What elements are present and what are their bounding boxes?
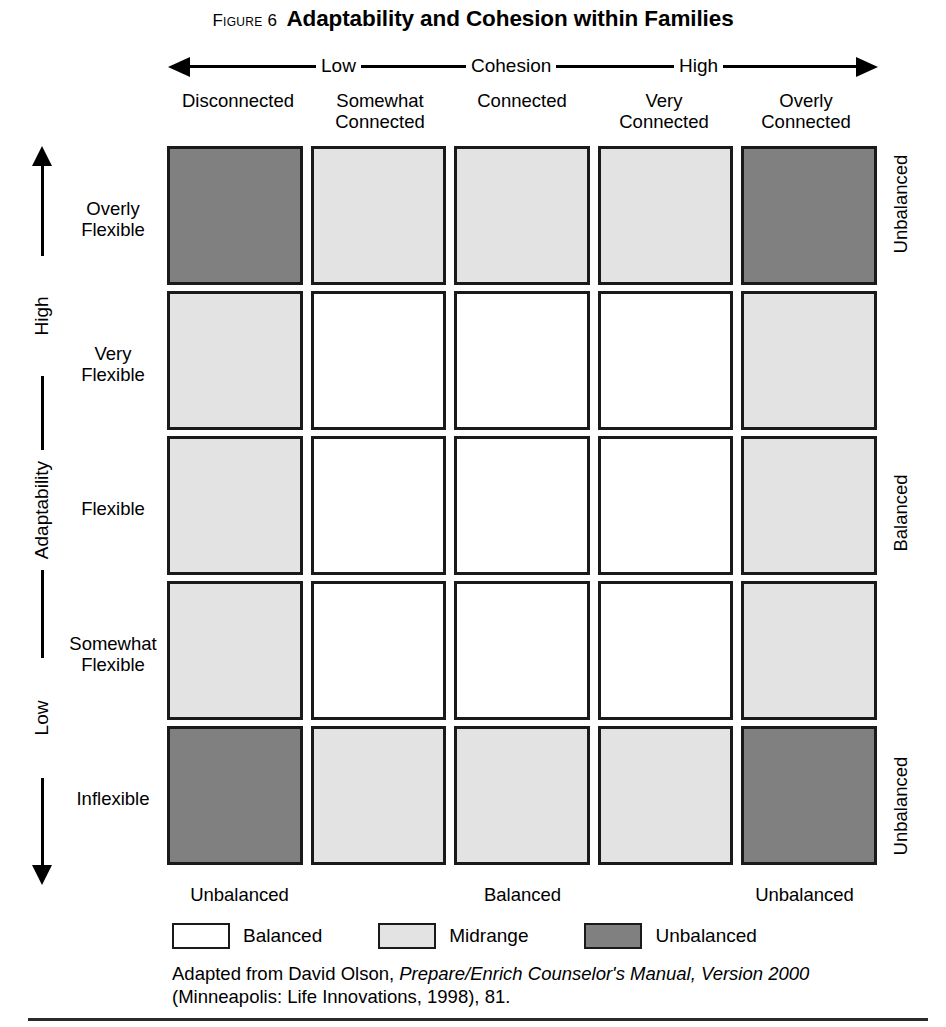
grid-cell: [741, 291, 877, 430]
grid-row: [167, 146, 877, 291]
row-label-somewhat-flexible: Somewhat Flexible: [62, 581, 164, 726]
grid-cell: [741, 146, 877, 285]
column-header-very-connected: Very Connected: [593, 90, 735, 132]
grid-cell: [741, 581, 877, 720]
grid-cell: [598, 436, 734, 575]
legend-swatch-balanced: [172, 923, 230, 949]
cohesion-axis-high-label: High: [674, 52, 723, 80]
grid-row: [167, 291, 877, 436]
side-band-label-unbalanced-top: Unbalanced: [886, 119, 916, 289]
cohesion-axis-low-label: Low: [316, 52, 361, 80]
grid-cell: [454, 726, 590, 865]
adaptability-axis-high-label: High: [26, 256, 58, 376]
row-label-inflexible: Inflexible: [62, 726, 164, 871]
grid-cell: [167, 581, 303, 720]
grid-cell: [598, 581, 734, 720]
grid-row: [167, 726, 877, 871]
grid-cell: [454, 146, 590, 285]
grid-row: [167, 436, 877, 581]
column-header-disconnected: Disconnected: [167, 90, 309, 132]
row-labels: Overly Flexible Very Flexible Flexible S…: [62, 146, 164, 885]
cohesion-axis-name-label: Cohesion: [466, 52, 556, 80]
grid-cell: [311, 291, 447, 430]
legend-label-unbalanced: Unbalanced: [655, 925, 756, 947]
legend-item-unbalanced: Unbalanced: [584, 923, 756, 949]
figure-title-text: Adaptability and Cohesion within Familie…: [286, 6, 733, 31]
row-label-overly-flexible: Overly Flexible: [62, 146, 164, 291]
grid-cell: [311, 436, 447, 575]
grid-cell: [454, 581, 590, 720]
grid-cell: [311, 726, 447, 865]
column-header-connected: Connected: [451, 90, 593, 132]
grid-cell: [454, 291, 590, 430]
side-band-label-unbalanced-bottom: Unbalanced: [886, 721, 916, 891]
grid-cell: [598, 726, 734, 865]
cohesion-axis: Low Cohesion High: [168, 52, 878, 80]
row-label-very-flexible: Very Flexible: [62, 291, 164, 436]
grid-cell: [167, 726, 303, 865]
page-title: Figure 6Adaptability and Cohesion within…: [0, 6, 946, 32]
grid-cell: [167, 146, 303, 285]
arrow-up-icon: [32, 146, 52, 166]
legend-swatch-midrange: [378, 923, 436, 949]
row-label-flexible: Flexible: [62, 436, 164, 581]
arrow-right-icon: [856, 57, 878, 77]
grid-cell: [741, 726, 877, 865]
adaptability-axis: High Adaptability Low: [26, 146, 60, 885]
source-note-title: Prepare/Enrich Counselor's Manual, Versi…: [399, 963, 809, 984]
grid-cell: [167, 291, 303, 430]
legend: Balanced Midrange Unbalanced: [172, 921, 757, 951]
legend-swatch-unbalanced: [584, 923, 642, 949]
grid-cell: [598, 146, 734, 285]
adaptability-axis-low-label: Low: [26, 658, 58, 778]
bottom-band-label-unbalanced-left: Unbalanced: [167, 882, 312, 908]
circumplex-grid: [167, 146, 877, 885]
adaptability-axis-name-label: Adaptability: [26, 450, 58, 570]
grid-row: [167, 581, 877, 726]
legend-label-balanced: Balanced: [243, 925, 322, 947]
source-note-prefix: Adapted from David Olson,: [172, 963, 399, 984]
side-band-labels: Unbalanced Balanced Unbalanced: [880, 146, 922, 885]
grid-cell: [167, 436, 303, 575]
grid-cell: [598, 291, 734, 430]
column-headers: Disconnected Somewhat Connected Connecte…: [167, 90, 877, 132]
page-divider: [28, 1018, 928, 1021]
bottom-band-labels: Unbalanced Balanced Unbalanced: [167, 882, 877, 908]
bottom-band-label-balanced: Balanced: [450, 882, 595, 908]
grid-cell: [454, 436, 590, 575]
column-header-somewhat-connected: Somewhat Connected: [309, 90, 451, 132]
grid-cell: [311, 581, 447, 720]
figure-number-label: Figure 6: [212, 11, 277, 30]
source-note-suffix: (Minneapolis: Life Innovations, 1998), 8…: [172, 986, 510, 1007]
legend-item-midrange: Midrange: [378, 923, 528, 949]
legend-item-balanced: Balanced: [172, 923, 322, 949]
arrow-down-icon: [32, 865, 52, 885]
side-band-label-balanced: Balanced: [886, 428, 916, 598]
grid-cell: [741, 436, 877, 575]
arrow-left-icon: [168, 57, 190, 77]
bottom-band-label-unbalanced-right: Unbalanced: [732, 882, 877, 908]
source-note: Adapted from David Olson, Prepare/Enrich…: [172, 962, 872, 1008]
legend-label-midrange: Midrange: [449, 925, 528, 947]
grid-cell: [311, 146, 447, 285]
column-header-overly-connected: Overly Connected: [735, 90, 877, 132]
